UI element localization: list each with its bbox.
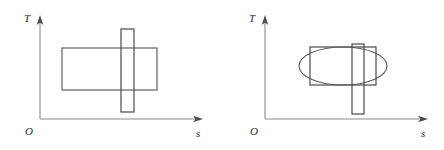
ts-diagram-right: T s O bbox=[249, 12, 428, 139]
ts-diagram-left: T s O bbox=[24, 12, 203, 139]
left-origin-label: O bbox=[25, 125, 33, 137]
right-narrow-vertical-rectangle bbox=[352, 44, 364, 114]
ts-diagram-figure: T s O T s O bbox=[0, 0, 444, 150]
right-enclosing-rectangle bbox=[310, 47, 376, 85]
right-ellipse bbox=[299, 47, 387, 85]
left-narrow-vertical-rectangle bbox=[121, 29, 134, 112]
right-origin-label: O bbox=[250, 125, 258, 137]
figure-canvas: T s O T s O bbox=[0, 0, 444, 150]
right-y-axis-label: T bbox=[249, 12, 256, 24]
left-wide-rectangle bbox=[62, 48, 157, 90]
right-x-axis-label: s bbox=[421, 127, 425, 139]
left-x-axis-label: s bbox=[196, 127, 200, 139]
left-y-axis-label: T bbox=[24, 12, 31, 24]
